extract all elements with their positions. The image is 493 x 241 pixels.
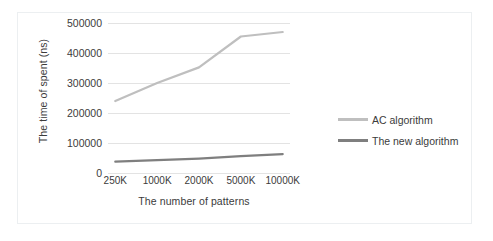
series-lines [108,23,290,173]
y-axis-tick-label: 400000 [67,47,102,59]
gridline [108,173,290,174]
legend-label: AC algorithm [372,114,433,126]
x-axis-tick-label: 250K [104,175,127,186]
legend-entry[interactable]: AC algorithm [338,109,458,130]
y-axis-tick-label: 300000 [67,77,102,89]
x-axis-tick-label: 10000K [265,175,299,186]
legend-entry[interactable]: The new algorithm [338,130,458,151]
chart-figure: The time of spent (ns) 01000002000003000… [17,12,472,224]
legend-line-swatch [338,139,368,142]
y-axis-title: The time of spent (ns) [37,26,49,156]
y-axis-tick-label: 200000 [67,107,102,119]
plot-area: 0100000200000300000400000500000 250K1000… [108,23,290,173]
legend-label: The new algorithm [372,135,458,147]
y-axis-tick-label: 100000 [67,137,102,149]
y-axis-tick-label: 500000 [67,17,102,29]
legend-line-swatch [338,118,368,121]
series-line [115,32,282,101]
x-axis-title: The number of patterns [64,195,324,207]
y-axis-tick-label: 0 [96,167,102,179]
chart-legend: AC algorithmThe new algorithm [338,109,458,151]
x-axis-tick-label: 1000K [143,175,172,186]
x-axis-tick-label: 5000K [226,175,255,186]
series-line [115,154,282,162]
x-axis-tick-label: 2000K [185,175,214,186]
